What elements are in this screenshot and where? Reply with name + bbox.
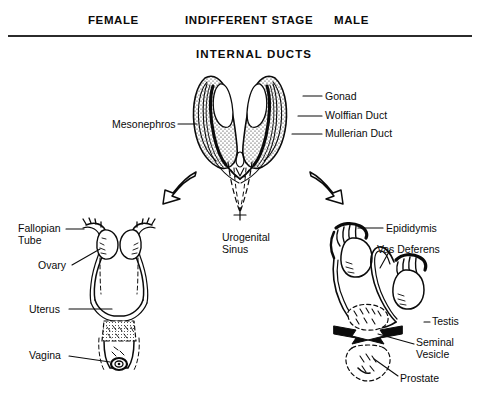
label-urogenital-sinus: Urogenital Sinus bbox=[222, 232, 270, 255]
label-ovary: Ovary bbox=[38, 260, 66, 272]
label-mullerian-duct: Mullerian Duct bbox=[325, 128, 392, 140]
label-vagina: Vagina bbox=[29, 350, 61, 362]
anatomy-drawing bbox=[0, 0, 480, 396]
label-vas-deferens: Vas Deferens bbox=[377, 244, 440, 256]
female-reproductive-tract bbox=[83, 218, 155, 370]
label-testis: Testis bbox=[432, 316, 459, 328]
label-prostate: Prostate bbox=[400, 373, 439, 385]
label-seminal-vesicle: Seminal Vesicle bbox=[416, 337, 454, 360]
label-mesonephros: Mesonephros bbox=[112, 119, 176, 131]
indifferent-gonad-duct-complex bbox=[193, 76, 286, 220]
leader-vagina bbox=[69, 356, 110, 362]
leader-prostate bbox=[374, 359, 398, 376]
label-gonad: Gonad bbox=[325, 91, 357, 103]
label-uterus: Uterus bbox=[29, 304, 60, 316]
label-fallopian-tube: Fallopian Tube bbox=[18, 223, 61, 246]
curved-arrow-down-right-icon bbox=[310, 172, 343, 204]
curved-arrow-down-left-icon bbox=[163, 172, 196, 204]
label-wolffian-duct: Wolffian Duct bbox=[325, 110, 387, 122]
figure-internal-ducts: FEMALE INDIFFERENT STAGE MALE INTERNAL D… bbox=[0, 0, 480, 396]
label-epididymis: Epididymis bbox=[386, 223, 437, 235]
